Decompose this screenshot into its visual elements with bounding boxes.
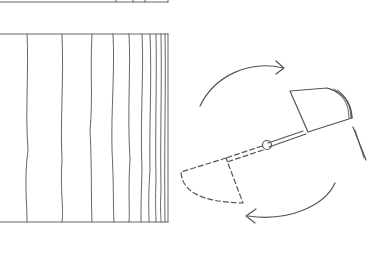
flap-solid xyxy=(268,88,366,160)
rotation-arrow-top xyxy=(200,61,284,106)
diagram-canvas xyxy=(0,0,379,264)
pivot-icon xyxy=(263,141,272,150)
rotation-arrow-bottom xyxy=(246,183,335,223)
flap-dashed xyxy=(181,146,263,203)
striped-panel xyxy=(0,34,168,222)
top-strip xyxy=(0,0,168,2)
